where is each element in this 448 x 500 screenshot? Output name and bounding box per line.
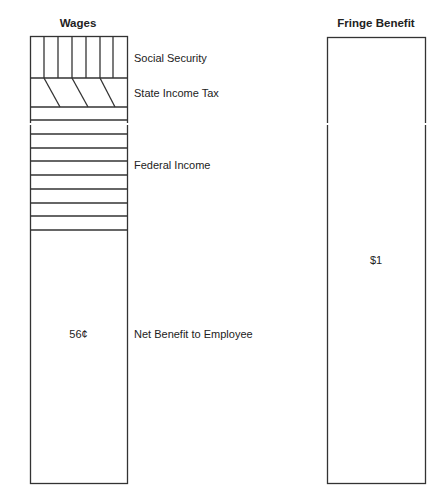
federal-income-label: Federal Income xyxy=(134,159,210,171)
social-security-hatch xyxy=(44,37,113,79)
state-tax-hatch xyxy=(44,78,115,107)
federal-income-hatch xyxy=(31,120,128,230)
state-income-tax-label: State Income Tax xyxy=(134,87,219,99)
wages-vs-fringe-diagram xyxy=(0,0,448,500)
net-benefit-label: Net Benefit to Employee xyxy=(134,328,253,340)
net-benefit-value: 56¢ xyxy=(30,328,127,340)
fringe-benefit-value: $1 xyxy=(327,254,425,266)
social-security-label: Social Security xyxy=(134,52,207,64)
